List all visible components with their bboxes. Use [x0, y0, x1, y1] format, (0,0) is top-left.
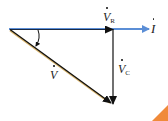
- vr-label: VR: [103, 11, 115, 25]
- vc-subscript: C: [125, 69, 130, 77]
- vr-symbol: V: [103, 10, 110, 24]
- vc-label: VC: [118, 63, 130, 77]
- vr-subscript: R: [110, 17, 115, 25]
- v-phasor-arrow: [10, 30, 111, 104]
- phase-angle-arc: [36, 30, 39, 46]
- v-symbol: V: [50, 68, 57, 82]
- phasor-diagram: [0, 0, 168, 121]
- vc-symbol: V: [118, 62, 125, 76]
- v-label: V: [50, 69, 57, 81]
- corner-accent: [152, 105, 168, 121]
- current-label: I: [151, 22, 155, 35]
- current-symbol: I: [151, 21, 155, 36]
